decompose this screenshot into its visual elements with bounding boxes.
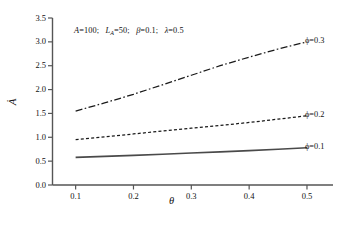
annotation-separator: ; — [127, 26, 136, 35]
parameter-annotation: A=100; LA=50; β=0.1; λ=0.5 — [74, 26, 184, 36]
y-tick-label: 1.5 — [22, 108, 46, 118]
y-tick-label: 2.0 — [22, 84, 46, 94]
figure-container: 0.00.51.01.52.02.53.03.5 0.10.20.30.40.5… — [0, 0, 343, 225]
annotation-separator: ; — [156, 26, 165, 35]
x-axis-title: θ — [0, 195, 343, 206]
y-tick-label: 0.0 — [22, 180, 46, 190]
annotation-value: =100 — [79, 26, 97, 35]
y-tick-label: 2.5 — [22, 60, 46, 70]
series-line-0.3 — [76, 42, 307, 111]
annotation-term-2: LA=50 — [106, 26, 128, 35]
series-line-0.1 — [76, 148, 307, 158]
annotation-term-1: A=100 — [74, 26, 97, 35]
annotation-value: =0.5 — [168, 26, 183, 35]
annotation-separator: ; — [97, 26, 106, 35]
y-axis-title: Ȧ — [6, 99, 18, 106]
caption-fragment — [0, 214, 343, 225]
y-tick-label: 1.0 — [22, 132, 46, 142]
annotation-term-4: λ=0.5 — [165, 26, 184, 35]
y-tick-label: 0.5 — [22, 156, 46, 166]
y-tick-label: 3.5 — [22, 13, 46, 23]
annotation-value: =50 — [114, 26, 127, 35]
annotation-value: =0.1 — [140, 26, 155, 35]
legend-label-1: ϕ=0.3 — [305, 36, 324, 45]
legend-label-3: ϕ=0.1 — [305, 142, 324, 151]
legend-label-2: ϕ=0.2 — [305, 110, 324, 119]
series-line-0.2 — [76, 116, 307, 140]
y-tick-label: 3.0 — [22, 36, 46, 46]
annotation-term-3: β=0.1 — [136, 26, 156, 35]
data-series-group — [76, 42, 307, 157]
